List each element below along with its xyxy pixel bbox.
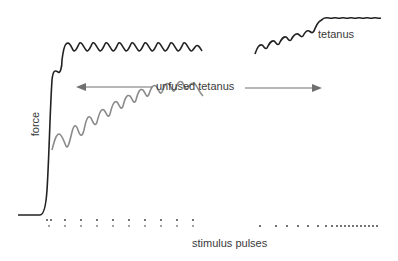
left-stimulus-dots (46, 219, 194, 227)
y-axis-label-force: force (29, 109, 41, 139)
right-arrow-icon (245, 84, 322, 92)
stimulus-pulses-label: stimulus pulses (192, 237, 267, 249)
right-stimulus-dots (259, 225, 378, 227)
unfused-tetanus-label: unfused tetanus (156, 80, 234, 92)
tetanus-label: tetanus (318, 28, 354, 40)
baseline-and-black-trace (18, 43, 202, 215)
